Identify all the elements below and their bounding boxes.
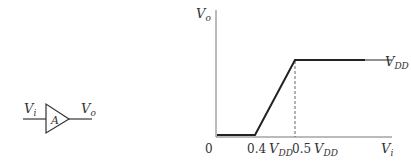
diagram-canvas: Vi Vo A Vo VDD 0 0.4VDD 0.5VDD Vi <box>0 0 411 168</box>
vdd-level-label: VDD <box>385 54 409 71</box>
input-label: Vi <box>24 101 36 118</box>
tick-origin: 0 <box>205 142 213 156</box>
tick-0-4-vdd: 0.4VDD <box>247 141 293 158</box>
output-label: Vo <box>81 101 96 118</box>
y-axis-label: Vo <box>196 6 211 23</box>
transfer-chart: Vo VDD 0 0.4VDD 0.5VDD Vi <box>196 6 409 158</box>
x-axis-label: Vi <box>381 141 393 158</box>
gain-label: A <box>50 114 59 127</box>
transfer-curve <box>217 60 365 135</box>
tick-0-5-vdd: 0.5VDD <box>292 141 338 158</box>
amplifier-symbol: Vi Vo A <box>23 101 96 133</box>
